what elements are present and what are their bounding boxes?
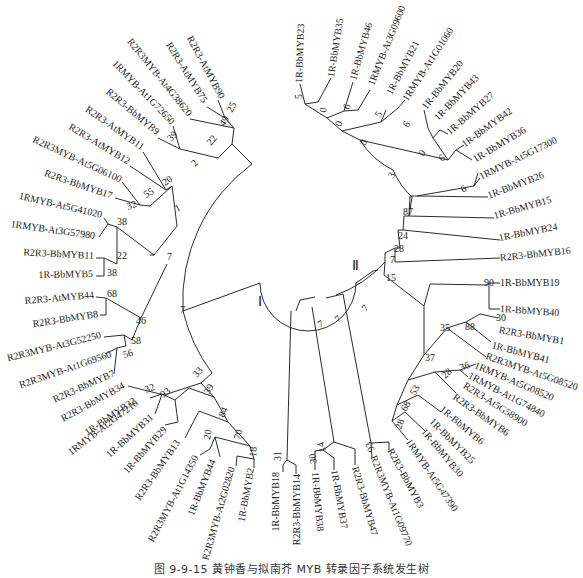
bootstrap-value: 31	[272, 451, 283, 461]
bootstrap-value: 49	[217, 114, 232, 129]
leaf-label: 1RMYB-At5G41020	[18, 190, 103, 220]
leaf-label: 1R-BbMYB37	[329, 469, 350, 529]
bootstrap-value: 30	[496, 312, 506, 323]
bootstrap-value: 87	[403, 206, 413, 217]
leaf-label: 1R-BbMYB24	[498, 221, 558, 243]
leaf-label: 1R-BbMYB15	[492, 194, 552, 221]
bootstrap-value: 1	[173, 202, 183, 214]
bootstrap-value: 0	[317, 107, 329, 114]
bootstrap-value: 7	[359, 302, 371, 313]
bootstrap-value: 5	[372, 109, 384, 119]
bootstrap-value: 0	[357, 137, 369, 147]
bootstrap-value: 30	[306, 453, 319, 465]
leaf-label: 1R-BbMYB38	[310, 471, 326, 531]
clade-label-I: Ⅰ	[258, 294, 262, 309]
bootstrap-value: 55	[142, 185, 156, 200]
bootstrap-value: 7	[316, 318, 326, 330]
bootstrap-value: 93	[363, 440, 377, 454]
bootstrap-value: 22	[204, 133, 219, 148]
bootstrap-value: 7	[332, 313, 343, 325]
bootstrap-value: 68	[398, 399, 413, 413]
bootstrap-value: 3	[385, 170, 397, 180]
bootstrap-value: 53	[407, 383, 422, 397]
bootstrap-value: 58	[131, 335, 141, 346]
leaf-label: 1R-BbMYB35	[325, 17, 345, 77]
leaf-label: R2R3-BbMYB14	[291, 474, 302, 545]
bootstrap-value: 70	[231, 428, 244, 441]
bootstrap-value: 24	[398, 230, 408, 241]
tree-branches	[96, 78, 500, 474]
bootstrap-value: 7	[180, 304, 185, 315]
bootstrap-value: 6	[436, 152, 447, 164]
bootstrap-value: 33	[190, 365, 205, 380]
clade-label-II: Ⅱ	[352, 258, 359, 273]
bootstrap-value: 14	[315, 441, 328, 454]
leaf-label: 1R-BbMYB23	[293, 23, 306, 83]
bootstrap-value: 18	[247, 446, 259, 457]
bootstrap-value: 88	[465, 321, 475, 332]
bootstrap-value: 68	[107, 288, 117, 299]
bootstrap-value: 38	[117, 216, 127, 227]
bootstrap-value: 6	[400, 119, 412, 129]
bootstrap-value: 6	[459, 183, 469, 195]
bootstrap-value: 35	[440, 322, 450, 333]
phylogenetic-tree: R2R3-AtMYB90R2R3-AtMYB75R2R3MYB-At4G3862…	[0, 0, 583, 578]
leaf-label: 1RMYB-At5G17300	[477, 134, 558, 181]
bootstrap-value: 0	[333, 119, 345, 127]
leaf-label: 1R-BbMYB2	[236, 467, 256, 523]
bootstrap-value: 7	[390, 254, 395, 265]
bootstrap-value: 28	[393, 418, 407, 431]
leaf-label: 1R-BbMYB19	[500, 277, 559, 288]
bootstrap-value: 15	[386, 272, 396, 283]
bootstrap-value: 5	[293, 94, 304, 99]
leaf-label: 1RMYB-At3G57980	[10, 218, 96, 241]
bootstrap-value: 7	[167, 251, 172, 262]
leaf-label: R2R3-BbMYB11	[23, 246, 94, 261]
bootstrap-value: 28	[394, 243, 404, 254]
bootstrap-value: 37	[425, 352, 435, 363]
bootstrap-value: 36	[458, 359, 471, 373]
bootstrap-value: 38	[107, 267, 117, 278]
bootstrap-value: 46	[136, 315, 146, 326]
bootstrap-value: 22	[117, 250, 127, 261]
bootstrap-value: 90	[484, 277, 494, 288]
bootstrap-value: 2	[189, 157, 200, 168]
bootstrap-value: 39	[201, 382, 216, 396]
bootstrap-value: 0	[416, 147, 428, 158]
bootstrap-value: 25	[224, 100, 238, 114]
bootstrap-value: 20	[201, 429, 214, 441]
leaf-label: 1R-BbMYB40	[500, 303, 560, 318]
bootstrap-value: 84	[216, 405, 230, 419]
leaf-label: R2R3-BbMYB8	[32, 308, 99, 329]
leaf-label: 1R-BbMYB5	[38, 268, 93, 280]
bootstrap-value: 56	[122, 347, 135, 360]
leaf-label: R2R3-AtMYB44	[24, 289, 94, 306]
leaf-label: 1R-BbMYB18	[270, 472, 281, 531]
leaf-label: R2R3-BbMYB16	[499, 245, 571, 263]
figure-caption: 图 9-9-15 黄钟香与拟南芥 MYB 转录因子系统发生树	[0, 560, 583, 576]
